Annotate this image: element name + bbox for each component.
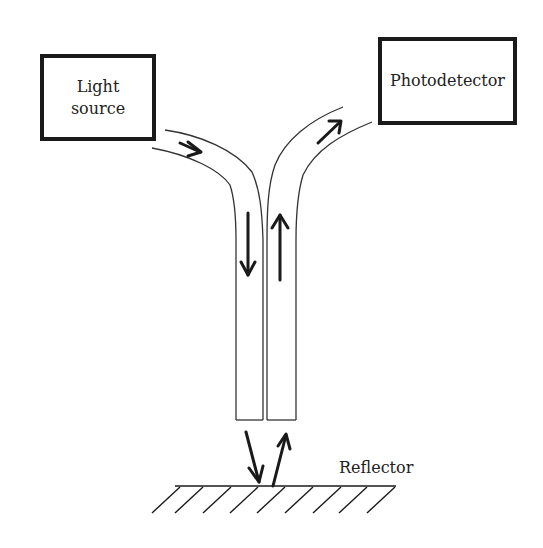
light-source-box: Light source	[40, 54, 156, 141]
photodetector-label: Photodetector	[390, 70, 505, 92]
reflector-hatching	[152, 487, 395, 513]
diagram-canvas: Light source Photodetector Reflector	[0, 0, 543, 548]
photodetector-box: Photodetector	[378, 37, 517, 125]
down-arrow-icon	[241, 213, 255, 275]
reflector-label: Reflector	[339, 458, 413, 477]
detector-fiber	[267, 107, 372, 420]
up-arrow-icon	[272, 215, 288, 280]
incoming-arrow-icon	[180, 142, 201, 156]
light-source-label: Light source	[71, 76, 125, 120]
detector-fiber-lower-wall	[296, 122, 372, 420]
detector-fiber-upper-wall	[267, 107, 343, 420]
source-fiber-lower-wall	[152, 148, 236, 420]
emitted-arrow-icon	[246, 432, 263, 482]
arrows	[180, 121, 341, 486]
reflected-arrow-icon	[273, 434, 290, 486]
reflector-surface	[152, 486, 396, 513]
